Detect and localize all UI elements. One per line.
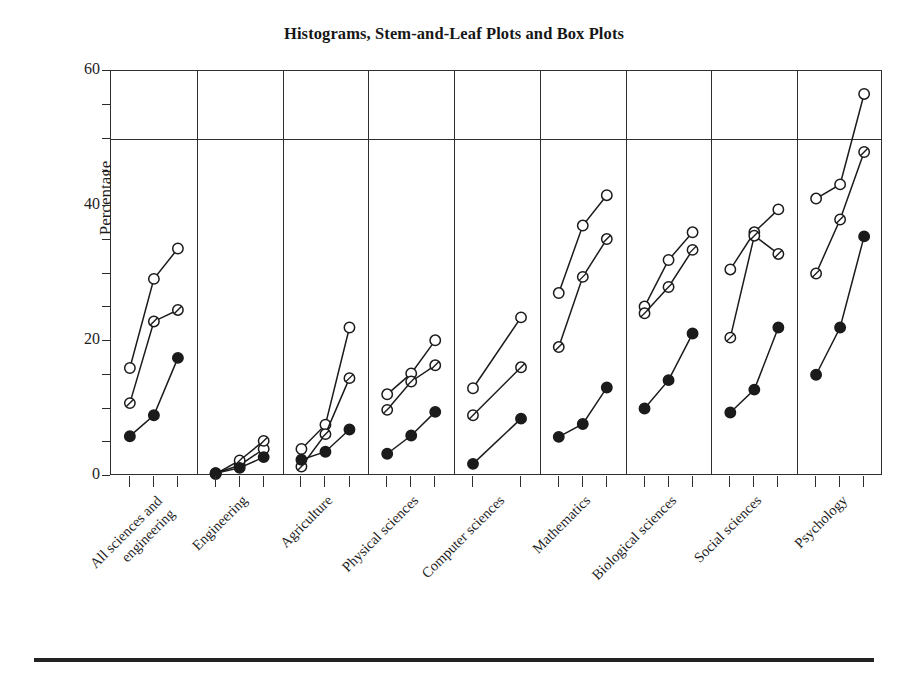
series-line [730, 236, 778, 338]
y-tick-label-60: 60 [60, 60, 100, 78]
chart-title: Histograms, Stem-and-Leaf Plots and Box … [0, 24, 908, 44]
y-tick-mark [102, 239, 110, 240]
data-point-half-filled-circle [811, 268, 821, 278]
data-point-half-filled-circle [639, 308, 649, 318]
data-point-filled-circle [125, 431, 135, 441]
data-point-filled-circle [749, 384, 759, 394]
x-tick [129, 476, 130, 487]
x-tick [606, 476, 607, 487]
data-point-filled-circle [382, 449, 392, 459]
series-layer [111, 71, 883, 476]
x-tick [777, 476, 778, 487]
data-point-open-circle [687, 227, 697, 237]
data-point-half-filled-circle [258, 436, 268, 446]
x-axis-labels: All sciences andengineeringEngineeringAg… [0, 488, 908, 638]
data-point-filled-circle [639, 403, 649, 413]
data-point-half-filled-circle [602, 234, 612, 244]
y-tick-label-40: 40 [60, 195, 100, 213]
x-axis-ticks [110, 476, 882, 488]
series-line [473, 419, 521, 464]
data-point-filled-circle [835, 322, 845, 332]
y-tick-mark [102, 70, 110, 71]
y-tick-mark [102, 475, 110, 476]
series-line [473, 367, 521, 415]
y-tick-mark [102, 306, 110, 307]
data-point-filled-circle [430, 407, 440, 417]
data-point-half-filled-circle [382, 405, 392, 415]
x-tick [582, 476, 583, 487]
x-tick [558, 476, 559, 487]
data-point-filled-circle [468, 459, 478, 469]
x-tick [863, 476, 864, 487]
y-tick-label-0: 0 [60, 465, 100, 483]
data-point-open-circle [663, 255, 673, 265]
data-point-open-circle [149, 274, 159, 284]
x-tick [300, 476, 301, 487]
series-line [130, 249, 178, 368]
data-point-filled-circle [602, 382, 612, 392]
data-point-half-filled-circle [578, 272, 588, 282]
x-tick [753, 476, 754, 487]
series-line [730, 328, 778, 413]
data-point-filled-circle [173, 353, 183, 363]
data-point-open-circle [468, 383, 478, 393]
data-point-half-filled-circle [859, 147, 869, 157]
x-tick [692, 476, 693, 487]
data-point-half-filled-circle [344, 373, 354, 383]
series-line [816, 152, 864, 274]
data-point-open-circle [835, 179, 845, 189]
x-tick [520, 476, 521, 487]
x-tick [668, 476, 669, 487]
data-point-filled-circle [663, 375, 673, 385]
series-line [559, 239, 607, 347]
data-point-filled-circle [811, 370, 821, 380]
data-point-half-filled-circle [320, 429, 330, 439]
y-tick-mark [102, 374, 110, 375]
y-tick-mark [102, 171, 110, 172]
data-point-filled-circle [234, 463, 244, 473]
series-line [645, 232, 693, 306]
data-point-half-filled-circle [749, 231, 759, 241]
data-point-half-filled-circle [468, 410, 478, 420]
y-tick-mark [102, 104, 110, 105]
data-point-half-filled-circle [149, 316, 159, 326]
x-tick [263, 476, 264, 487]
data-point-open-circle [296, 444, 306, 454]
data-point-filled-circle [320, 447, 330, 457]
data-point-half-filled-circle [173, 305, 183, 315]
data-point-filled-circle [296, 455, 306, 465]
data-point-open-circle [382, 389, 392, 399]
data-point-filled-circle [687, 328, 697, 338]
data-point-half-filled-circle [125, 398, 135, 408]
chart-figure: Histograms, Stem-and-Leaf Plots and Box … [0, 0, 908, 676]
data-point-filled-circle [773, 322, 783, 332]
x-tick [386, 476, 387, 487]
data-point-half-filled-circle [687, 245, 697, 255]
data-point-filled-circle [149, 410, 159, 420]
data-point-filled-circle [859, 231, 869, 241]
data-point-open-circle [344, 322, 354, 332]
data-point-filled-circle [258, 452, 268, 462]
series-line [645, 334, 693, 409]
x-tick [215, 476, 216, 487]
data-point-filled-circle [725, 407, 735, 417]
data-point-half-filled-circle [773, 249, 783, 259]
data-point-open-circle [773, 204, 783, 214]
series-line [473, 317, 521, 388]
y-tick-mark [102, 138, 110, 139]
data-point-filled-circle [344, 424, 354, 434]
y-tick-label-20: 20 [60, 330, 100, 348]
x-tick [349, 476, 350, 487]
series-line [130, 358, 178, 436]
x-tick [729, 476, 730, 487]
y-tick-mark [102, 340, 110, 341]
data-point-filled-circle [516, 413, 526, 423]
data-point-half-filled-circle [725, 332, 735, 342]
data-point-half-filled-circle [554, 342, 564, 352]
data-point-open-circle [554, 288, 564, 298]
data-point-open-circle [516, 312, 526, 322]
x-tick [815, 476, 816, 487]
x-tick [644, 476, 645, 487]
y-tick-mark [102, 273, 110, 274]
y-tick-mark [102, 441, 110, 442]
